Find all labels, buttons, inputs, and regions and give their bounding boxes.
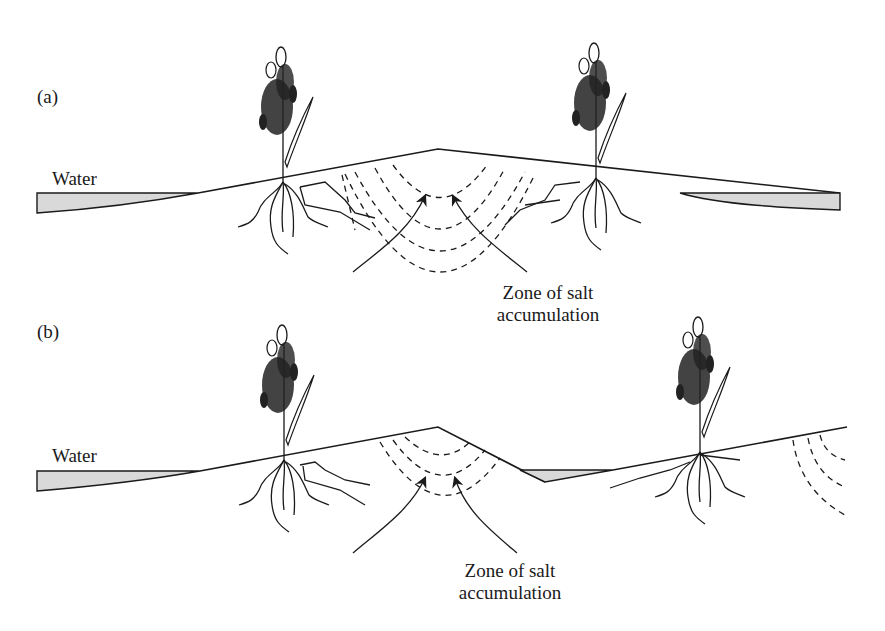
arrow-icon bbox=[455, 478, 517, 553]
zone-label-line2: accumulation bbox=[488, 304, 608, 326]
arrow-icon bbox=[453, 196, 527, 272]
water-label: Water bbox=[52, 168, 97, 190]
panel-a-label: (a) bbox=[37, 86, 58, 108]
ground-surface bbox=[200, 427, 545, 482]
water-body-left bbox=[37, 471, 200, 491]
zone-label-line1: Zone of salt bbox=[450, 560, 570, 582]
water-body-right bbox=[680, 193, 840, 210]
arrow-icon bbox=[353, 196, 425, 272]
panel-b bbox=[37, 317, 847, 553]
rice-plant-icon bbox=[655, 317, 745, 524]
rice-plant-icon bbox=[239, 325, 329, 532]
water-body-middle bbox=[520, 470, 613, 482]
rice-plant-icon bbox=[238, 47, 328, 254]
arrow-icon bbox=[353, 478, 425, 553]
zone-label-line2: accumulation bbox=[450, 582, 570, 604]
rice-plant-icon bbox=[551, 43, 641, 250]
zone-label-line1: Zone of salt bbox=[488, 282, 608, 304]
diagram-canvas bbox=[0, 0, 885, 631]
water-label: Water bbox=[52, 445, 97, 467]
water-body-left bbox=[37, 193, 198, 213]
ground-surface bbox=[198, 149, 840, 193]
panel-a bbox=[37, 43, 840, 272]
panel-b-label: (b) bbox=[37, 321, 59, 343]
